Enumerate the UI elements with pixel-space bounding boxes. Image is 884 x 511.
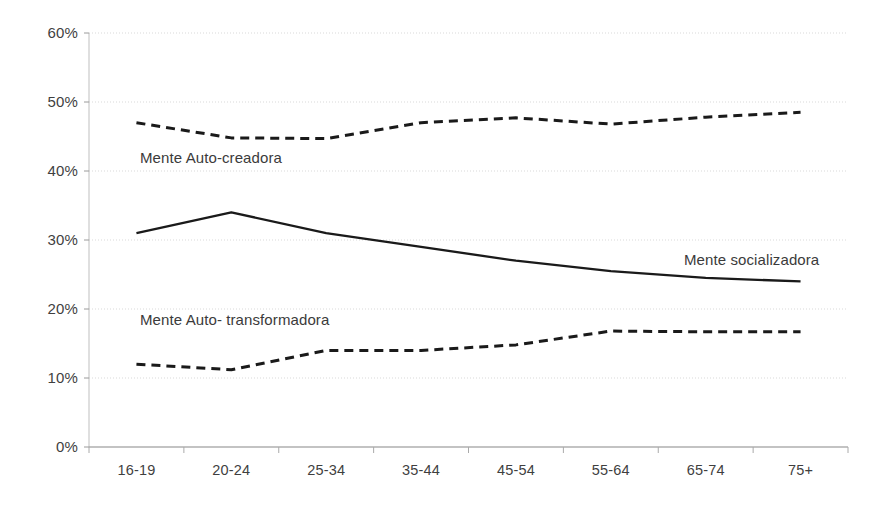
x-axis-tick-label: 35-44 [374,463,469,478]
series-line-1 [136,212,800,281]
x-axis-tick-label: 65-74 [658,463,753,478]
x-axis-ticks [89,447,848,453]
line-chart: 60%50%40%30%20%10%0% 16-1920-2425-3435-4… [0,0,884,511]
gridlines [89,33,848,447]
x-axis-tick-label: 25-34 [279,463,374,478]
series-line-0 [136,112,800,138]
y-axis-tick-label: 10% [10,370,78,385]
y-axis-ticks [84,33,89,447]
series-annotation: Mente Auto- transformadora [140,312,329,327]
y-axis-tick-label: 0% [10,439,78,454]
y-axis-tick-label: 40% [10,163,78,178]
x-axis-tick-label: 55-64 [563,463,658,478]
x-axis-tick-label: 45-54 [469,463,564,478]
x-axis-tick-label: 16-19 [89,463,184,478]
series-annotation: Mente Auto-creadora [140,150,282,165]
x-axis-tick-label: 20-24 [184,463,279,478]
x-axis-tick-label: 75+ [753,463,848,478]
y-axis-tick-label: 50% [10,94,78,109]
y-axis-tick-label: 30% [10,232,78,247]
series-annotation: Mente socializadora [684,252,819,267]
y-axis-tick-label: 60% [10,25,78,40]
y-axis-tick-label: 20% [10,301,78,316]
series-line-2 [136,331,800,370]
